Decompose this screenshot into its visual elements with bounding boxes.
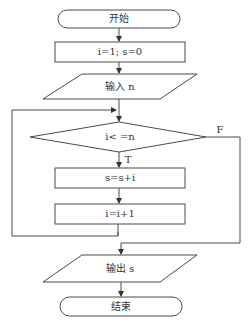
false-branch-line bbox=[121, 137, 240, 254]
false-edge-label: F bbox=[214, 124, 226, 136]
end-label: 结束 bbox=[60, 301, 182, 313]
start-label: 开始 bbox=[58, 13, 180, 25]
output-label: 输出 s bbox=[60, 263, 180, 275]
condition-label: i< =n bbox=[60, 131, 180, 143]
accumulate-label: s=s+i bbox=[55, 172, 185, 184]
increment-label: i=i+1 bbox=[55, 208, 185, 220]
input-label: 输入 n bbox=[60, 81, 180, 93]
init-label: i=1; s=0 bbox=[55, 46, 185, 58]
true-edge-label: T bbox=[122, 154, 134, 166]
flowchart: 开始 i=1; s=0 输入 n i< =n T F s=s+i i=i+1 输… bbox=[0, 0, 249, 325]
